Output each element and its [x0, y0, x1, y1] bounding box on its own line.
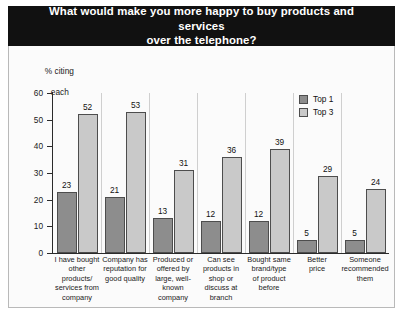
y-tick-10 — [47, 226, 52, 227]
legend-label-top3: Top 3 — [313, 107, 333, 117]
bar-value-label: 5 — [293, 228, 321, 238]
bar-value-label: 5 — [341, 228, 369, 238]
bar-value-label: 29 — [314, 164, 342, 174]
chart-legend: Top 1 Top 3 — [299, 94, 333, 120]
y-tick-0 — [47, 253, 52, 254]
bar-top-1-5 — [297, 240, 317, 253]
bar-value-label: 31 — [170, 158, 198, 168]
bar-value-label: 13 — [149, 206, 177, 216]
y-tick-label-50: 50 — [13, 115, 43, 125]
y-tick-label-30: 30 — [13, 168, 43, 178]
bar-value-label: 39 — [266, 137, 294, 147]
bar-top-3-0 — [78, 114, 98, 253]
y-tick-label-0: 0 — [13, 248, 43, 258]
chart-panel: % citing each 0102030405060 235221531331… — [8, 46, 395, 308]
y-tick-60 — [47, 93, 52, 94]
category-label-1: Company has reputation for good quality — [101, 255, 149, 283]
y-tick-20 — [47, 200, 52, 201]
bar-top-1-1 — [105, 197, 125, 253]
y-tick-30 — [47, 173, 52, 174]
y-tick-50 — [47, 120, 52, 121]
bar-top-3-5 — [318, 176, 338, 253]
y-tick-label-60: 60 — [13, 88, 43, 98]
legend-item-top1: Top 1 — [299, 94, 333, 104]
bar-top-3-3 — [222, 157, 242, 253]
bar-value-label: 53 — [122, 100, 150, 110]
bar-top-3-1 — [126, 112, 146, 253]
category-label-6: Someone recommended them — [341, 255, 389, 283]
group-separator — [245, 93, 246, 253]
category-label-3: Can see products in shop or discuss at b… — [197, 255, 245, 302]
chart-title: What would make you more happy to buy pr… — [30, 4, 373, 48]
category-label-4: Bought same brand/type of product before — [245, 255, 293, 293]
bar-top-1-2 — [153, 218, 173, 253]
bar-value-label: 12 — [245, 209, 273, 219]
bar-groups: 23522153133112361239529524 — [53, 93, 389, 253]
bar-value-label: 12 — [197, 209, 225, 219]
y-tick-label-10: 10 — [13, 221, 43, 231]
bar-value-label: 23 — [53, 180, 81, 190]
chart-figure: What would make you more happy to buy pr… — [8, 6, 395, 308]
bar-top-3-4 — [270, 149, 290, 253]
group-separator — [197, 93, 198, 253]
y-tick-label-40: 40 — [13, 141, 43, 151]
legend-swatch-top3 — [299, 108, 308, 117]
category-label-0: I have bought other products/ services f… — [53, 255, 101, 302]
chart-title-banner: What would make you more happy to buy pr… — [8, 6, 395, 46]
bar-top-1-3 — [201, 221, 221, 253]
bar-value-label: 21 — [101, 185, 129, 195]
legend-label-top1: Top 1 — [313, 94, 333, 104]
y-tick-40 — [47, 146, 52, 147]
bar-top-3-6 — [366, 189, 386, 253]
category-label-2: Produced or offered by large, well- know… — [149, 255, 197, 302]
bar-top-1-6 — [345, 240, 365, 253]
group-separator — [101, 93, 102, 253]
x-axis-line — [52, 253, 389, 254]
chart-title-line-2: over the telephone? — [146, 34, 256, 46]
bar-top-1-0 — [57, 192, 77, 253]
bar-top-1-4 — [249, 221, 269, 253]
y-tick-label-20: 20 — [13, 195, 43, 205]
y-axis-label-line-1: % citing — [45, 66, 74, 76]
legend-swatch-top1 — [299, 95, 308, 104]
chart-title-line-1: What would make you more happy to buy pr… — [49, 5, 354, 32]
bar-top-3-2 — [174, 170, 194, 253]
group-separator — [149, 93, 150, 253]
category-label-5: Better price — [293, 255, 341, 274]
bar-value-label: 36 — [218, 145, 246, 155]
legend-item-top3: Top 3 — [299, 107, 333, 117]
bar-value-label: 52 — [74, 102, 102, 112]
bar-value-label: 24 — [362, 177, 390, 187]
